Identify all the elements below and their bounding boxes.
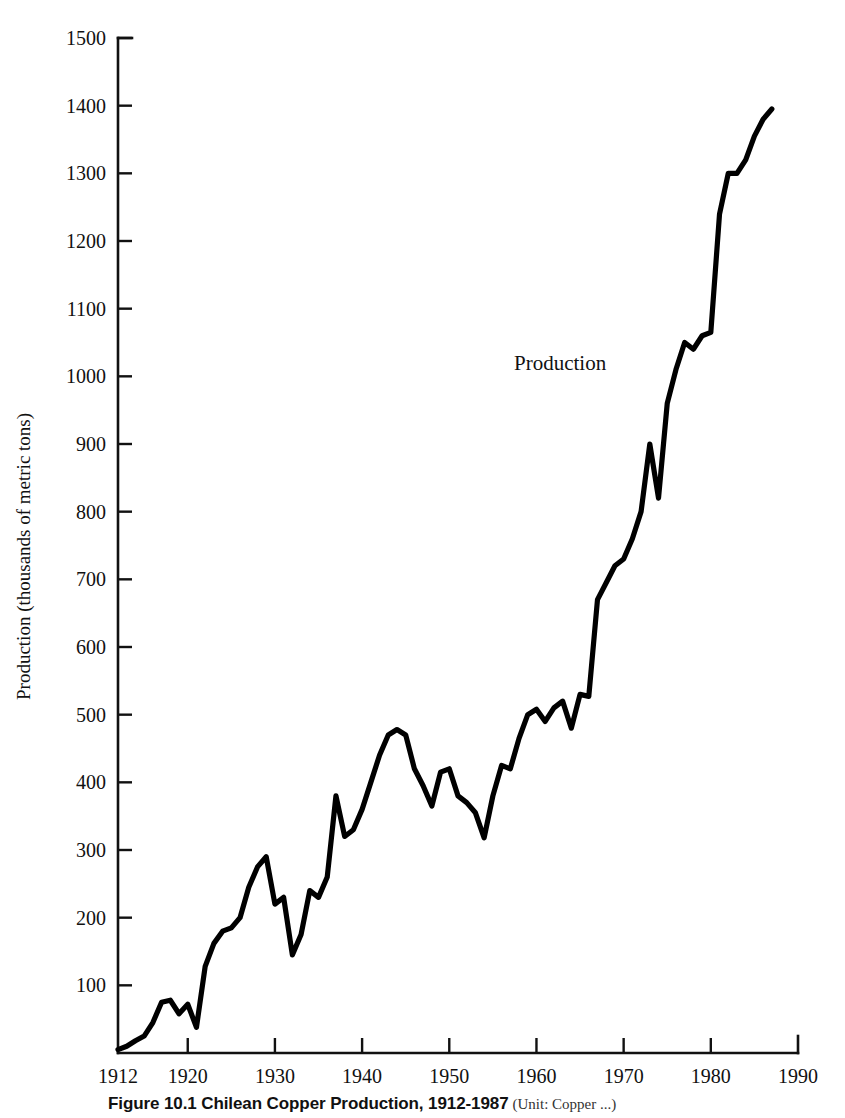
y-axis-title: Production (thousands of metric tons)	[13, 413, 35, 700]
y-tick-label: 900	[76, 433, 106, 455]
production-annotation: Production	[514, 351, 607, 375]
y-tick-label-group: 1002003004005006007008009001000110012001…	[66, 27, 106, 996]
x-tick-label-group: 191219201930194019501960197019801990	[98, 1065, 818, 1087]
y-tick-group	[118, 38, 132, 985]
figure-caption-source: (Unit: Copper ...)	[513, 1096, 617, 1112]
y-tick-label: 1200	[66, 230, 106, 252]
y-tick-label: 200	[76, 907, 106, 929]
figure-caption-label: Figure 10.1 Chilean Copper Production, 1…	[108, 1094, 509, 1113]
x-tick-label: 1950	[429, 1065, 469, 1087]
x-tick-group	[188, 1038, 711, 1053]
y-tick-label: 1400	[66, 95, 106, 117]
y-tick-label: 400	[76, 771, 106, 793]
y-tick-label: 1000	[66, 365, 106, 387]
x-tick-label: 1920	[168, 1065, 208, 1087]
x-tick-label: 1970	[604, 1065, 644, 1087]
x-tick-label: 1960	[516, 1065, 556, 1087]
y-tick-label: 1100	[67, 298, 106, 320]
figure-container: Production (thousands of metric tons) 10…	[0, 0, 845, 1118]
y-tick-label: 600	[76, 636, 106, 658]
y-tick-label: 700	[76, 568, 106, 590]
y-tick-label: 1300	[66, 162, 106, 184]
figure-caption: Figure 10.1 Chilean Copper Production, 1…	[108, 1094, 808, 1118]
y-tick-label: 800	[76, 501, 106, 523]
production-series-line	[118, 109, 772, 1050]
x-tick-label: 1930	[255, 1065, 295, 1087]
y-tick-label: 500	[76, 704, 106, 726]
y-tick-label: 1500	[66, 27, 106, 49]
y-tick-label: 100	[76, 974, 106, 996]
copper-production-line-chart: Production (thousands of metric tons) 10…	[0, 0, 845, 1090]
axes-group	[118, 38, 798, 1053]
x-tick-label: 1990	[778, 1065, 818, 1087]
x-tick-label: 1980	[691, 1065, 731, 1087]
x-tick-label: 1912	[98, 1065, 138, 1087]
y-tick-label: 300	[76, 839, 106, 861]
x-tick-label: 1940	[342, 1065, 382, 1087]
